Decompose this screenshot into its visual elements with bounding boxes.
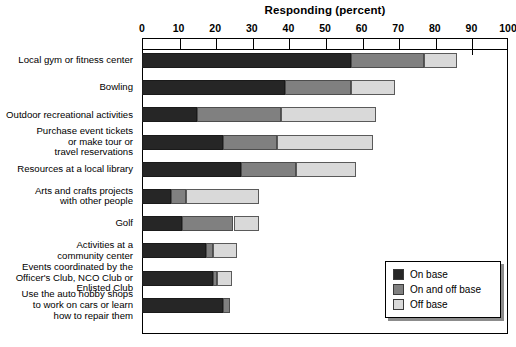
x-tick-label: 30 bbox=[246, 22, 258, 34]
x-tick-label: 100 bbox=[499, 22, 516, 34]
bar-segment-off-base[interactable] bbox=[186, 189, 259, 204]
bar-segment-off-base[interactable] bbox=[281, 107, 376, 122]
bar-segment-on-and-off-base[interactable] bbox=[351, 53, 424, 68]
legend-item[interactable]: On and off base bbox=[393, 282, 494, 296]
chart-title: Responding (percent) bbox=[142, 4, 508, 16]
bar-segment-on-base[interactable] bbox=[142, 298, 223, 313]
chart-page: Responding (percent) 0102030405060708090… bbox=[0, 0, 516, 347]
bar-segment-off-base[interactable] bbox=[351, 80, 395, 95]
x-tick-label: 20 bbox=[209, 22, 221, 34]
bar-segment-off-base[interactable] bbox=[277, 135, 372, 150]
legend-item[interactable]: On base bbox=[393, 267, 494, 281]
bar-segment-on-and-off-base[interactable] bbox=[197, 107, 281, 122]
legend-swatch-icon bbox=[393, 284, 404, 295]
category-label: Activities at a community center bbox=[57, 240, 133, 261]
legend-swatch-icon bbox=[393, 299, 404, 310]
x-tick-label: 80 bbox=[429, 22, 441, 34]
legend: On baseOn and off baseOff base bbox=[385, 261, 501, 318]
legend-label: On and off base bbox=[410, 284, 481, 295]
bar-segment-on-base[interactable] bbox=[142, 107, 197, 122]
bar-segment-on-and-off-base[interactable] bbox=[182, 216, 233, 231]
bar-segment-on-and-off-base[interactable] bbox=[223, 135, 278, 150]
bar-segment-on-and-off-base[interactable] bbox=[171, 189, 186, 204]
bar-segment-on-and-off-base[interactable] bbox=[223, 298, 230, 313]
bar-segment-on-base[interactable] bbox=[142, 189, 171, 204]
bar-segment-on-and-off-base[interactable] bbox=[206, 243, 213, 258]
legend-item[interactable]: Off base bbox=[393, 297, 494, 311]
category-label: Resources at a local library bbox=[17, 164, 133, 175]
bar-segment-on-base[interactable] bbox=[142, 162, 241, 177]
category-label: Use the auto hobby shops to work on cars… bbox=[22, 289, 133, 321]
category-label: Golf bbox=[115, 218, 133, 229]
bar-segment-off-base[interactable] bbox=[424, 53, 457, 68]
bar-segment-on-base[interactable] bbox=[142, 53, 351, 68]
category-label: Local gym or fitness center bbox=[18, 55, 133, 66]
x-tick-label: 10 bbox=[173, 22, 185, 34]
x-tick-label: 90 bbox=[466, 22, 478, 34]
x-tick-label: 40 bbox=[283, 22, 295, 34]
legend-label: On base bbox=[410, 269, 448, 280]
bar-segment-off-base[interactable] bbox=[217, 271, 232, 286]
category-label: Arts and crafts projects with other peop… bbox=[35, 186, 133, 207]
x-tick-label: 70 bbox=[392, 22, 404, 34]
x-tick-label: 0 bbox=[139, 22, 145, 34]
x-axis-tick-labels: 0102030405060708090100 bbox=[0, 22, 516, 36]
bar-segment-on-base[interactable] bbox=[142, 243, 206, 258]
bar-segment-on-base[interactable] bbox=[142, 80, 285, 95]
bar-segment-off-base[interactable] bbox=[234, 216, 260, 231]
category-label: Purchase event tickets or make tour or t… bbox=[36, 126, 133, 158]
category-label: Outdoor recreational activities bbox=[6, 110, 133, 121]
x-tick-label: 50 bbox=[319, 22, 331, 34]
category-label: Bowling bbox=[99, 82, 133, 93]
legend-swatch-icon bbox=[393, 269, 404, 280]
bar-segment-off-base[interactable] bbox=[213, 243, 237, 258]
bar-segment-on-base[interactable] bbox=[142, 135, 223, 150]
bar-segment-on-and-off-base[interactable] bbox=[241, 162, 296, 177]
category-labels: Local gym or fitness centerBowlingOutdoo… bbox=[0, 38, 138, 334]
x-tick-label: 60 bbox=[356, 22, 368, 34]
bar-segment-on-and-off-base[interactable] bbox=[285, 80, 351, 95]
bar-segment-on-base[interactable] bbox=[142, 271, 213, 286]
bar-segment-on-base[interactable] bbox=[142, 216, 182, 231]
legend-label: Off base bbox=[410, 299, 448, 310]
bar-segment-off-base[interactable] bbox=[296, 162, 356, 177]
